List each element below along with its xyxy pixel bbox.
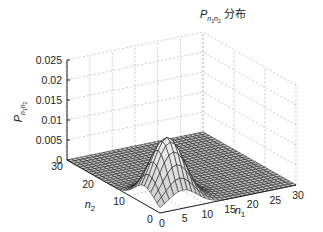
- z-tick-label: 0.025: [36, 54, 62, 66]
- surface-plot: 00.0050.010.0150.020.0250510152025300102…: [0, 0, 323, 232]
- n1-tick-label: 10: [201, 208, 213, 220]
- surface-mesh: [67, 132, 296, 208]
- z-tick-label: 0.005: [36, 134, 62, 146]
- n2-tick-label: 20: [82, 178, 94, 190]
- z-tick-label: 0.015: [36, 94, 62, 106]
- chart-title: Pn1n2 分布: [200, 8, 246, 24]
- z-tick-label: 0.02: [42, 74, 63, 86]
- n2-tick-label: 10: [113, 195, 125, 207]
- n1-tick-label: 25: [269, 194, 281, 206]
- z-axis-label: Pn1n2: [12, 101, 28, 122]
- n2-axis-label: n2: [85, 198, 96, 213]
- n1-tick-label: 30: [292, 189, 304, 201]
- n1-axis-label: n1: [235, 204, 246, 219]
- n1-tick-label: 0: [159, 217, 165, 229]
- n1-tick-label: 20: [247, 198, 259, 210]
- n2-tick-label: 30: [51, 160, 63, 172]
- n1-tick-label: 5: [182, 212, 188, 224]
- n2-tick-label: 0: [147, 213, 153, 225]
- z-tick-label: 0.01: [42, 114, 63, 126]
